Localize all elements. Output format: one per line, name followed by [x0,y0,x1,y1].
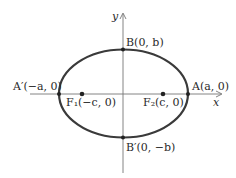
y-axis-label: y [111,10,119,23]
ellipse-curve [59,50,188,138]
point-b-prime [121,136,125,140]
label-a-prime: A′(−a, 0) [12,80,62,93]
label-b: B(0, b) [126,36,164,49]
point-a [186,92,190,96]
ellipse-diagram: y x B(0, b) B′(0, −b) A′(−a, 0) A(a, 0) … [0,0,236,178]
x-axis-label: x [213,96,220,109]
label-f2: F₂(c, 0) [143,96,184,109]
label-a: A(a, 0) [191,80,229,93]
point-b [121,48,125,52]
label-b-prime: B′(0, −b) [126,141,175,154]
label-f1: F₁(−c, 0) [66,96,116,109]
